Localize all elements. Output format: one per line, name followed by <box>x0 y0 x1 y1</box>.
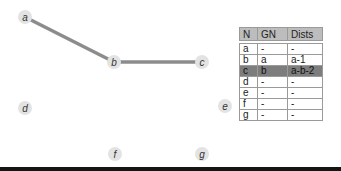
cell-gn: a <box>258 55 288 66</box>
cell-n: b <box>240 55 258 66</box>
cell-gn: - <box>258 77 288 88</box>
table-row: d-- <box>240 77 323 88</box>
table-row: e-- <box>240 88 323 99</box>
cell-dists: a-b-2 <box>288 66 323 77</box>
cell-gn: - <box>258 44 288 55</box>
edge-a-b <box>25 17 114 62</box>
node-g[interactable]: g <box>195 147 209 161</box>
node-b[interactable]: b <box>107 55 121 69</box>
header-gn: GN <box>258 28 288 41</box>
cell-dists: - <box>288 110 323 121</box>
node-d[interactable]: d <box>18 101 32 115</box>
cell-gn: - <box>258 99 288 110</box>
table-header-row: N GN Dists <box>240 28 323 41</box>
header-dists: Dists <box>288 28 323 41</box>
cell-dists: a-1 <box>288 55 323 66</box>
node-label: d <box>22 103 28 114</box>
cell-dists: - <box>288 99 323 110</box>
header-n: N <box>240 28 258 41</box>
cell-n: d <box>240 77 258 88</box>
table-row: baa-1 <box>240 55 323 66</box>
cell-gn: - <box>258 110 288 121</box>
cell-n: a <box>240 44 258 55</box>
cell-dists: - <box>288 88 323 99</box>
cell-n: e <box>240 88 258 99</box>
cell-n: f <box>240 99 258 110</box>
node-e[interactable]: e <box>218 99 232 113</box>
table-body: a--baa-1cba-b-2d--e--f--g-- <box>240 41 323 121</box>
node-label: g <box>199 149 205 160</box>
distance-table: N GN Dists a--baa-1cba-b-2d--e--f--g-- <box>239 27 323 121</box>
node-c[interactable]: c <box>195 55 209 69</box>
cell-n: g <box>240 110 258 121</box>
bottom-bar <box>0 167 341 171</box>
node-f[interactable]: f <box>108 147 122 161</box>
table-row: f-- <box>240 99 323 110</box>
table-row: cba-b-2 <box>240 66 323 77</box>
cell-gn: - <box>258 88 288 99</box>
node-a[interactable]: a <box>18 10 32 24</box>
node-label: b <box>111 57 117 68</box>
table-row: g-- <box>240 110 323 121</box>
table-row: a-- <box>240 44 323 55</box>
cell-gn: b <box>258 66 288 77</box>
nodes-layer: abcdefg <box>18 10 232 161</box>
cell-dists: - <box>288 44 323 55</box>
node-label: a <box>22 12 28 23</box>
cell-n: c <box>240 66 258 77</box>
cell-dists: - <box>288 77 323 88</box>
node-label: c <box>200 57 205 68</box>
node-label: e <box>222 101 228 112</box>
